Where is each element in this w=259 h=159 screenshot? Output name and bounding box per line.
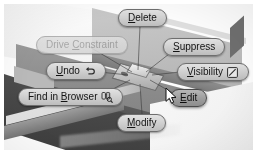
page-margin-left: [0, 0, 4, 159]
menu-item-drive-constraint: Drive Constraint: [36, 36, 128, 54]
menu-item-delete[interactable]: Delete: [118, 9, 167, 27]
page-margin-bottom: [0, 150, 259, 159]
selected-feature-glyph[interactable]: [116, 62, 160, 88]
menu-item-visibility[interactable]: Visibility: [177, 63, 249, 81]
menu-item-delete-label: Delete: [128, 13, 157, 23]
marking-menu-screenshot: Delete Drive Constraint Suppress Undo Vi…: [0, 0, 259, 159]
menu-item-edit[interactable]: Edit: [170, 89, 207, 107]
menu-item-find-in-browser[interactable]: Find in Browser: [18, 88, 123, 106]
page-margin-right: [253, 0, 259, 159]
menu-item-undo-label: Undo: [56, 66, 80, 76]
menu-item-find-in-browser-label: Find in Browser: [28, 92, 97, 102]
menu-item-modify[interactable]: Modify: [117, 114, 166, 132]
menu-item-suppress[interactable]: Suppress: [163, 38, 225, 56]
menu-item-suppress-label: Suppress: [173, 42, 215, 52]
menu-item-edit-label: Edit: [180, 93, 197, 103]
menu-item-visibility-label: Visibility: [187, 67, 223, 77]
undo-arrow-icon: [84, 65, 96, 77]
page-margin-top: [0, 0, 259, 4]
binoculars-icon: [101, 91, 113, 103]
menu-item-undo[interactable]: Undo: [46, 62, 106, 80]
menu-item-modify-label: Modify: [127, 118, 156, 128]
menu-item-drive-constraint-label: Drive Constraint: [46, 40, 118, 50]
checkbox-checked-icon[interactable]: [227, 66, 239, 78]
